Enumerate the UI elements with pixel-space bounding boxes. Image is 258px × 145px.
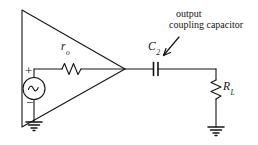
output-resistance-label: ro bbox=[61, 40, 69, 55]
coupling-capacitor bbox=[154, 63, 159, 76]
load-resistor-subscript: L bbox=[231, 88, 235, 97]
circuit-diagram: ro C2 RL + − output coupling capacitor bbox=[0, 0, 258, 145]
output-resistance-subscript: o bbox=[66, 48, 70, 57]
annotation-arrow bbox=[164, 37, 180, 56]
coupling-capacitor-annotation: output coupling capacitor bbox=[169, 9, 243, 31]
load-resistor bbox=[211, 80, 221, 99]
source-positive-terminal-label: + bbox=[25, 64, 32, 78]
coupling-capacitor-label: C2 bbox=[148, 40, 159, 55]
ac-source-sine-icon bbox=[28, 86, 38, 91]
source-negative-terminal-label: − bbox=[26, 96, 33, 110]
load-resistor-label: RL bbox=[223, 80, 234, 95]
output-resistor bbox=[62, 64, 81, 75]
annotation-line-2: coupling capacitor bbox=[169, 20, 243, 31]
load-ground bbox=[208, 127, 224, 136]
coupling-capacitor-subscript: 2 bbox=[156, 48, 160, 57]
